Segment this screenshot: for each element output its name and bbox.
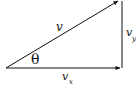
vx-subscript: x: [69, 78, 73, 86]
vector-diagram: v θ v x v y: [0, 0, 136, 89]
v-label: v: [56, 20, 63, 34]
v-vector-arrow: [6, 1, 118, 68]
vy-subscript: y: [131, 35, 136, 43]
vx-label: v: [62, 70, 69, 83]
theta-label: θ: [31, 51, 39, 67]
